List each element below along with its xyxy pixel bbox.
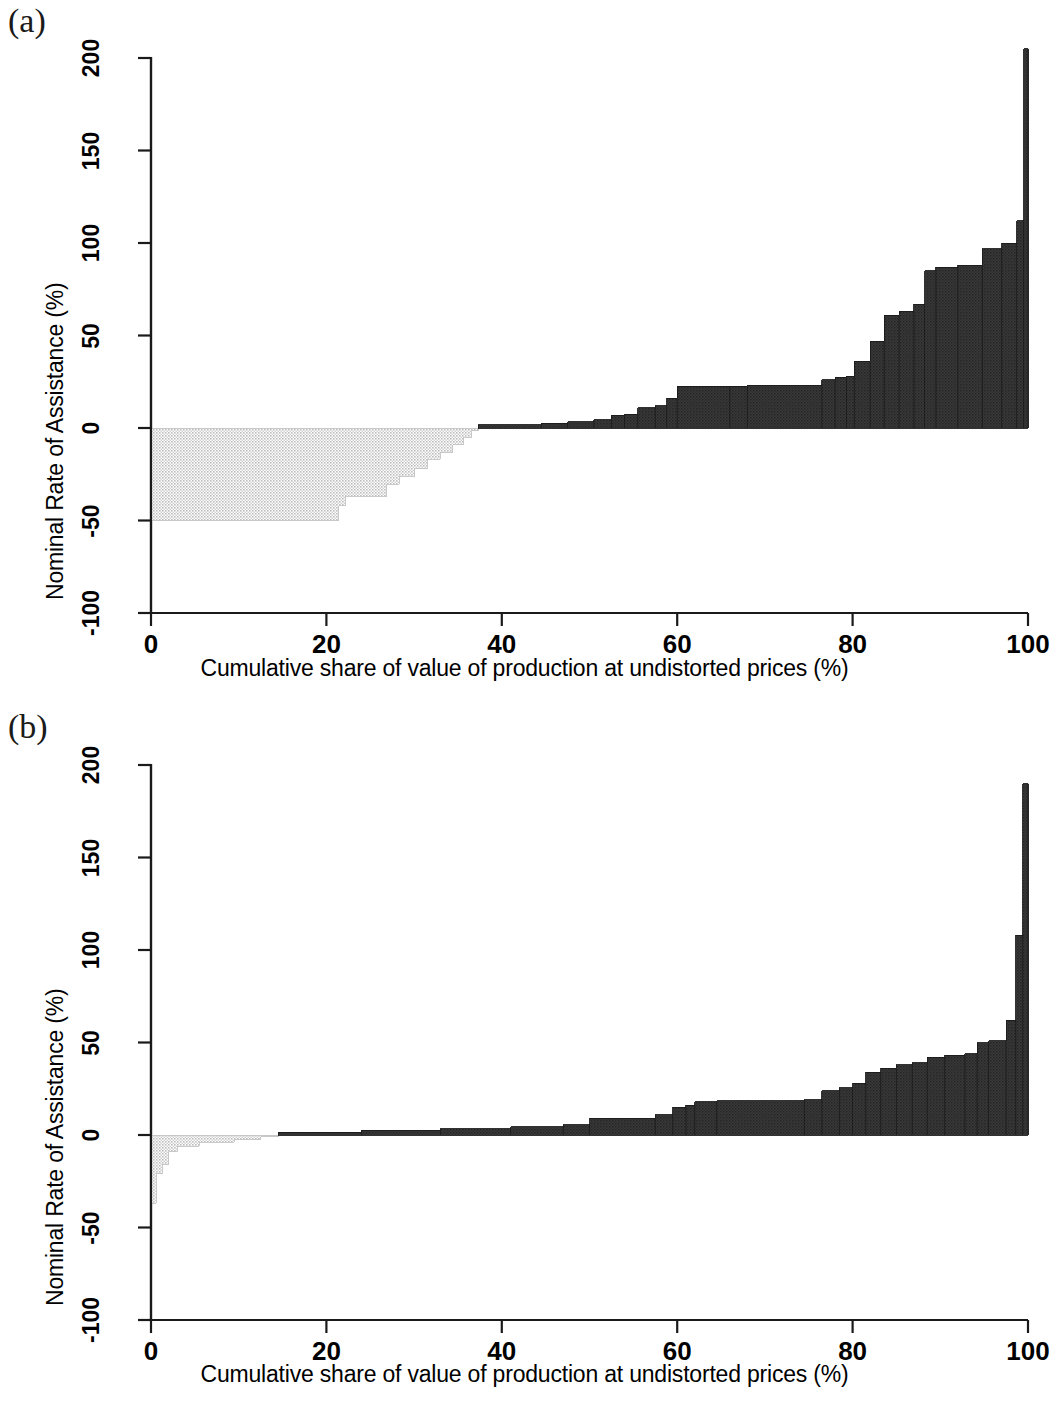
panel-b: (b) Nominal Rate of Assistance (%) Cumul… — [0, 706, 1049, 1401]
x-tick-label: 100 — [988, 1336, 1054, 1367]
y-tick-label: 50 — [77, 1003, 105, 1083]
y-tick-label: -50 — [77, 1188, 105, 1268]
y-tick-label: 200 — [77, 725, 105, 805]
x-tick-label: 100 — [988, 629, 1054, 660]
x-tick-label: 60 — [637, 1336, 717, 1367]
y-tick-label: 150 — [77, 111, 105, 191]
y-tick-label: 0 — [77, 388, 105, 468]
x-tick-label: 20 — [286, 629, 366, 660]
x-tick-label: 0 — [111, 1336, 191, 1367]
panel-b-y-axis-title: Nominal Rate of Assistance (%) — [42, 989, 69, 1306]
x-tick-label: 20 — [286, 1336, 366, 1367]
y-tick-label: 150 — [77, 818, 105, 898]
panel-a: (a) Nominal Rate of Assistance (%) Cumul… — [0, 0, 1049, 706]
y-tick-label: -50 — [77, 481, 105, 561]
panel-a-plot — [0, 0, 1049, 706]
y-tick-label: 200 — [77, 18, 105, 98]
y-tick-label: 50 — [77, 296, 105, 376]
x-tick-label: 0 — [111, 629, 191, 660]
y-tick-label: -100 — [77, 1280, 105, 1360]
x-tick-label: 40 — [462, 629, 542, 660]
y-tick-label: -100 — [77, 573, 105, 653]
y-tick-label: 100 — [77, 910, 105, 990]
panel-a-y-axis-title: Nominal Rate of Assistance (%) — [42, 283, 69, 600]
x-tick-label: 80 — [813, 629, 893, 660]
panel-b-plot — [0, 706, 1049, 1401]
x-tick-label: 80 — [813, 1336, 893, 1367]
x-tick-label: 40 — [462, 1336, 542, 1367]
y-tick-label: 0 — [77, 1095, 105, 1175]
x-tick-label: 60 — [637, 629, 717, 660]
y-tick-label: 100 — [77, 203, 105, 283]
